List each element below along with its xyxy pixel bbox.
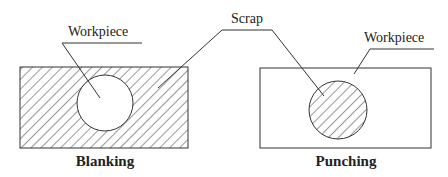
workpiece-left-label: Workpiece <box>68 24 128 39</box>
blanking-punching-diagram: Workpiece Scrap Workpiece Blanking Punch… <box>0 0 448 177</box>
workpiece-right-leader <box>354 49 434 74</box>
punching-slug-hatched <box>309 81 367 139</box>
workpiece-right-label: Workpiece <box>364 30 424 45</box>
punching-caption: Punching <box>316 153 377 169</box>
scrap-label: Scrap <box>231 11 263 26</box>
punching-panel <box>260 68 431 148</box>
blanking-panel <box>20 67 188 148</box>
blanking-caption: Blanking <box>76 153 135 169</box>
blanking-hole <box>77 75 133 131</box>
